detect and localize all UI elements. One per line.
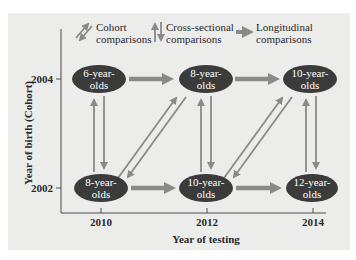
svg-text:olds: olds: [301, 79, 319, 91]
longitudinal-legend-label-line2: comparisons: [256, 33, 312, 45]
research-design-diagram: Cohort comparisons Cross-sectional compa…: [0, 0, 356, 260]
svg-text:olds: olds: [92, 188, 110, 200]
x-tick-2014: 2014: [302, 216, 325, 228]
svg-text:10-year-: 10-year-: [291, 67, 328, 79]
svg-text:8-year-: 8-year-: [190, 67, 222, 79]
x-tick-2012: 2012: [196, 216, 219, 228]
cohort-legend-icon: [76, 24, 92, 40]
y-tick-2004: 2004: [31, 73, 54, 85]
axes: 2004 2002 2010 2012 2014 Year of testing…: [22, 29, 326, 245]
node-12-year-olds-2002: 12-year- olds: [286, 174, 338, 202]
svg-text:olds: olds: [90, 79, 108, 91]
cross-sectional-legend-label-line1: Cross-sectional: [166, 21, 234, 33]
svg-text:6-year-: 6-year-: [83, 67, 115, 79]
svg-text:10-year-: 10-year-: [187, 176, 224, 188]
svg-text:olds: olds: [303, 188, 321, 200]
node-6-year-olds-2004: 6-year- olds: [72, 65, 126, 93]
x-axis-label: Year of testing: [172, 233, 240, 245]
cross-sectional-legend-icon: [155, 22, 161, 42]
cross-sectional-arrows: [94, 96, 316, 172]
x-tick-2010: 2010: [90, 216, 113, 228]
cohort-arrows: [118, 97, 292, 178]
svg-text:olds: olds: [197, 79, 215, 91]
svg-text:8-year-: 8-year-: [85, 176, 117, 188]
cross-sectional-legend-label-line2: comparisons: [166, 33, 222, 45]
svg-text:olds: olds: [197, 188, 215, 200]
node-8-year-olds-2004: 8-year- olds: [179, 65, 233, 93]
node-8-year-olds-2002: 8-year- olds: [74, 174, 128, 202]
cohort-legend-label-line2: comparisons: [96, 33, 152, 45]
y-axis-label: Year of birth (Cohort): [22, 81, 35, 185]
svg-text:12-year-: 12-year-: [293, 176, 330, 188]
longitudinal-legend-label-line1: Longitudinal: [256, 21, 313, 33]
node-10-year-olds-2002: 10-year- olds: [179, 174, 233, 202]
legend: Cohort comparisons Cross-sectional compa…: [76, 21, 313, 45]
cohort-legend-label-line1: Cohort: [96, 21, 127, 33]
node-10-year-olds-2004: 10-year- olds: [283, 65, 337, 93]
y-tick-2002: 2002: [31, 182, 54, 194]
